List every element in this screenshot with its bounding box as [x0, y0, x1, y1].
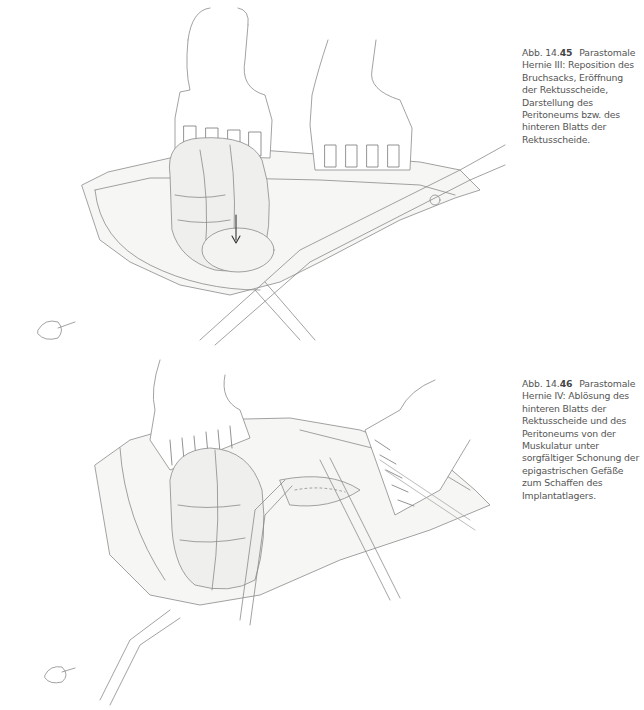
figure-number: 45: [560, 47, 573, 58]
surgical-illustration-2: [0, 340, 510, 710]
figure-label-prefix: Abb. 14.: [522, 378, 560, 389]
surgical-illustration-1: [0, 0, 510, 350]
caption-text: Parastomale Hernie IV: Ablösung des hint…: [522, 378, 639, 501]
figure-caption: Abb. 14.46Parastomale Hernie IV: Ablösun…: [522, 378, 640, 502]
figure-label-prefix: Abb. 14.: [522, 47, 560, 58]
figure-caption: Abb. 14.45Parastomale Hernie III: Reposi…: [522, 47, 640, 146]
figure-14-45: Abb. 14.45Parastomale Hernie III: Reposi…: [0, 0, 644, 350]
figure-number: 46: [560, 378, 573, 389]
caption-text: Parastomale Hernie III: Reposition des B…: [522, 47, 635, 145]
figure-14-46: Abb. 14.46Parastomale Hernie IV: Ablösun…: [0, 340, 644, 710]
